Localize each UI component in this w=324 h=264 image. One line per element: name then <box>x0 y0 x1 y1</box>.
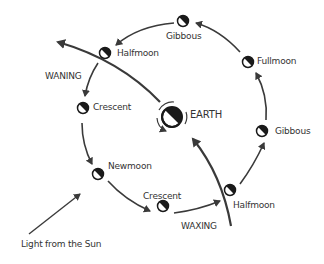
moon-newmoon-icon <box>93 168 104 179</box>
orbit-arrow-fullmoon-to-gibbous <box>196 23 240 52</box>
moon-halfmoon-right-icon <box>225 184 236 195</box>
earth-label: EARTH <box>190 110 222 120</box>
sunlight-label: Light from the Sun <box>21 240 101 249</box>
phase-label-halfmoon-right: Halfmoon <box>233 201 275 210</box>
waxing-label: WAXING <box>181 222 217 231</box>
moon-crescent-bottom-icon <box>158 200 169 211</box>
moon-gibbous-right-icon <box>257 125 268 136</box>
waning-label: WANING <box>45 72 81 81</box>
phase-label-fullmoon: Fullmoon <box>257 57 296 66</box>
phase-label-newmoon: Newmoon <box>108 162 152 171</box>
phase-label-crescent-left: Crescent <box>93 103 131 112</box>
orbit-arrow-gibbous-to-fullmoon <box>256 73 266 120</box>
earth-icon <box>157 102 187 131</box>
phase-label-gibbous-right: Gibbous <box>275 127 310 136</box>
moon-gibbous-top-icon <box>178 15 189 26</box>
phase-label-gibbous-top: Gibbous <box>166 32 201 41</box>
orbit-arrow-halfmoon-to-crescent <box>85 63 98 96</box>
waxing-arrow <box>193 139 231 226</box>
orbit-arrow-crescent-to-newmoon <box>82 123 92 164</box>
moon-fullmoon-icon <box>243 56 254 67</box>
moon-halfmoon-left-icon <box>100 47 111 58</box>
phase-label-halfmoon-left: Halfmoon <box>117 49 159 58</box>
moon-crescent-left-icon <box>78 102 89 113</box>
moon-phase-diagram: EARTH Gibbous Fullmoon Gibbous Halfmoon … <box>0 0 324 264</box>
phase-label-crescent-bottom: Crescent <box>143 192 181 201</box>
orbit-arrow-crescent-to-halfmoon <box>174 201 220 213</box>
sunlight-arrow <box>29 194 80 234</box>
orbit-arrow-halfmoon-to-gibbous <box>240 143 264 184</box>
